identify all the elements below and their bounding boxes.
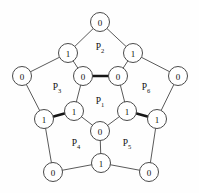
face-label-f3: P3 — [53, 82, 62, 94]
graph-edge-n_out_r-n_br — [150, 128, 155, 163]
node-label: 0 — [51, 168, 56, 178]
face-label-f6: P6 — [142, 82, 151, 94]
node-label: 0 — [81, 72, 86, 82]
graph-diagram: 011000011011010 P1P2P3P4P5P6 — [0, 0, 199, 193]
face-label-subscript: 1 — [101, 101, 104, 108]
node-label: 0 — [116, 72, 121, 82]
graph-edge-n_bc-n_br — [110, 165, 140, 171]
face-label-f4: P4 — [72, 138, 81, 150]
face-label-f5: P5 — [123, 138, 132, 150]
graph-node-n_ul[interactable]: 1 — [59, 44, 78, 63]
graph-node-n_in_b[interactable]: 0 — [91, 122, 110, 141]
graph-node-n_ur[interactable]: 1 — [124, 44, 143, 63]
graph-edge-n_out_l-n_bl — [46, 128, 52, 163]
node-label: 0 — [98, 127, 103, 137]
graph-edge-n_ur-n_right — [141, 57, 170, 72]
graph-edge-n_out_r-n_in_r — [136, 113, 149, 116]
graph-edge-n_top-n_ur — [107, 28, 127, 47]
graph-edge-n_in_tl-n_in_l — [76, 85, 81, 103]
node-label: 0 — [147, 168, 152, 178]
graph-node-n_out_r[interactable]: 1 — [148, 110, 167, 129]
graph-edge-n_in_r-n_in_b — [107, 116, 120, 125]
face-label-subscript: 3 — [58, 87, 61, 94]
graph-node-n_in_tl[interactable]: 0 — [74, 67, 93, 86]
node-label: 0 — [98, 18, 103, 28]
graph-edge-n_in_l-n_in_b — [81, 116, 93, 125]
graph-node-n_bl[interactable]: 0 — [44, 163, 63, 182]
graph-edge-n_left-n_out_l — [26, 84, 40, 111]
graph-edge-n_ur-n_in_tr — [123, 61, 128, 69]
node-label: 0 — [176, 72, 181, 82]
graph-edge-n_ul-n_in_tl — [73, 61, 78, 69]
node-label: 1 — [99, 159, 104, 169]
graph-node-n_in_r[interactable]: 1 — [118, 102, 137, 121]
graph-node-n_right[interactable]: 0 — [169, 67, 188, 86]
graph-edge-n_top-n_ul — [74, 28, 93, 46]
node-label: 1 — [131, 49, 136, 59]
graph-edge-n_right-n_out_r — [161, 84, 174, 111]
graph-canvas: 011000011011010 P1P2P3P4P5P6 — [0, 0, 199, 193]
node-label: 1 — [125, 107, 130, 117]
graph-node-n_in_l[interactable]: 1 — [65, 102, 84, 121]
graph-edge-n_ul-n_left — [30, 57, 60, 72]
face-label-subscript: 5 — [128, 143, 131, 150]
node-label: 1 — [72, 107, 77, 117]
face-label-subscript: 4 — [77, 143, 81, 150]
node-label: 1 — [155, 115, 160, 125]
graph-node-n_in_tr[interactable]: 0 — [109, 67, 128, 86]
face-label-f1: P1 — [96, 96, 105, 108]
graph-edge-n_out_l-n_in_l — [53, 113, 66, 116]
graph-edge-n_bl-n_bc — [62, 165, 92, 171]
face-label-subscript: 6 — [147, 87, 151, 94]
graph-node-n_out_l[interactable]: 1 — [35, 110, 54, 129]
node-label: 1 — [66, 49, 71, 59]
graph-edge-n_in_tr-n_in_r — [120, 85, 125, 103]
graph-node-n_bc[interactable]: 1 — [92, 154, 111, 173]
face-label-subscript: 2 — [101, 47, 104, 54]
node-label: 0 — [20, 72, 25, 82]
graph-node-n_left[interactable]: 0 — [13, 67, 32, 86]
graph-node-n_br[interactable]: 0 — [140, 163, 159, 182]
graph-node-n_top[interactable]: 0 — [91, 13, 110, 32]
node-label: 1 — [42, 115, 47, 125]
face-label-f2: P2 — [96, 42, 105, 54]
